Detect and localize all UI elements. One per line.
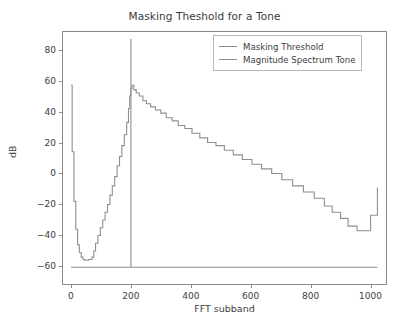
x-tick-label: 0 (68, 291, 74, 301)
x-tick-mark (191, 285, 192, 288)
x-tick-label: 600 (242, 291, 259, 301)
y-tick-label: −60 (20, 261, 56, 271)
y-tick-label: −20 (20, 199, 56, 209)
legend-label: Magnitude Spectrum Tone (243, 55, 355, 65)
x-tick-label: 1000 (359, 291, 382, 301)
y-tick-mark (59, 173, 62, 174)
y-tick-mark (59, 204, 62, 205)
legend-line-swatch-icon (219, 46, 237, 47)
y-tick-mark (59, 266, 62, 267)
y-tick-label: −40 (20, 230, 56, 240)
x-tick-mark (371, 285, 372, 288)
chart-title: Masking Theshold for a Tone (0, 10, 409, 22)
x-tick-label: 400 (182, 291, 199, 301)
y-tick-label: 0 (20, 168, 56, 178)
series-line (71, 39, 377, 267)
y-tick-mark (59, 81, 62, 82)
y-tick-mark (59, 235, 62, 236)
y-axis-label: dB (7, 145, 18, 158)
legend-item-magnitude-spectrum-tone: Magnitude Spectrum Tone (219, 53, 355, 66)
y-tick-label: 60 (20, 76, 56, 86)
y-tick-label: 40 (20, 107, 56, 117)
legend-box: Masking Threshold Magnitude Spectrum Ton… (213, 35, 362, 71)
y-tick-mark (59, 112, 62, 113)
y-tick-label: 20 (20, 138, 56, 148)
legend-item-masking-threshold: Masking Threshold (219, 40, 355, 53)
x-tick-mark (71, 285, 72, 288)
x-axis-label: FFT subband (62, 303, 387, 314)
figure-canvas: Masking Theshold for a Tone 806040200−20… (0, 0, 409, 329)
series-line (71, 85, 377, 260)
x-tick-label: 800 (302, 291, 319, 301)
legend-label: Masking Threshold (243, 42, 324, 52)
x-tick-label: 200 (122, 291, 139, 301)
y-tick-label: 80 (20, 45, 56, 55)
y-tick-mark (59, 143, 62, 144)
x-tick-mark (251, 285, 252, 288)
y-tick-mark (59, 50, 62, 51)
x-tick-mark (131, 285, 132, 288)
legend-line-swatch-icon (219, 59, 237, 60)
x-tick-mark (311, 285, 312, 288)
